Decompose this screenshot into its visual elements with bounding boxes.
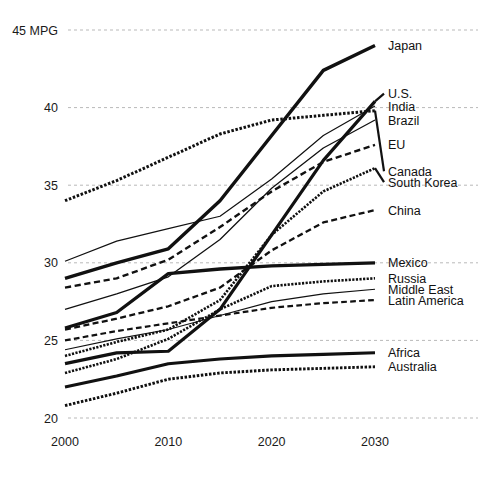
series-label-japan: Japan: [388, 39, 422, 53]
series-label-brazil: Brazil: [388, 114, 419, 128]
series-label-china: China: [388, 204, 421, 218]
series-labels-group: JapanU.S.IndiaBrazilEUCanadaSouth KoreaC…: [375, 39, 464, 374]
fuel-economy-line-chart: 202530354045 MPG 2000201020202030 JapanU…: [0, 0, 482, 494]
x-axis-tick-labels: 2000201020202030: [51, 435, 389, 449]
y-tick-label-25: 25: [44, 334, 58, 348]
series-line-south-korea: [65, 168, 375, 356]
series-line-india: [65, 106, 375, 261]
series-line-u-s-: [65, 101, 375, 363]
x-tick-label-2030: 2030: [361, 435, 389, 449]
series-label-africa: Africa: [388, 346, 420, 360]
series-label-mexico: Mexico: [388, 256, 428, 270]
leader-stub-south-korea: [375, 168, 384, 182]
series-lines-group: [65, 46, 375, 406]
x-tick-label-2020: 2020: [258, 435, 286, 449]
y-tick-label-20: 20: [44, 412, 58, 426]
series-label-india: India: [388, 100, 415, 114]
series-line-australia: [65, 367, 375, 406]
series-label-latin-america: Latin America: [388, 294, 464, 308]
leader-stub-canada: [375, 111, 384, 172]
y-tick-label-35: 35: [44, 179, 58, 193]
leader-stub-u-s-: [375, 94, 384, 102]
series-label-south-korea: South Korea: [388, 176, 458, 190]
y-tick-label-30: 30: [44, 256, 58, 270]
x-tick-label-2000: 2000: [51, 435, 79, 449]
y-tick-label-40: 40: [44, 101, 58, 115]
series-line-africa: [65, 353, 375, 387]
series-label-eu: EU: [388, 138, 405, 152]
series-label-australia: Australia: [388, 360, 437, 374]
x-tick-label-2010: 2010: [154, 435, 182, 449]
y-tick-label-45: 45 MPG: [12, 24, 58, 38]
y-axis-tick-labels: 202530354045 MPG: [12, 24, 58, 426]
